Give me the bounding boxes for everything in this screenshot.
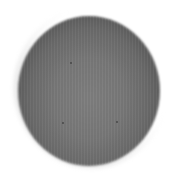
speck — [70, 62, 72, 64]
sphere-texture — [18, 16, 160, 166]
speck — [116, 121, 118, 123]
speck — [62, 122, 64, 124]
image-canvas — [0, 0, 176, 180]
